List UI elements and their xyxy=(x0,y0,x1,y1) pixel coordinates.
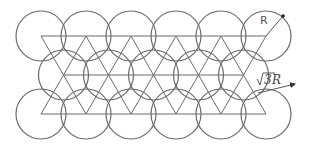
sqrt3-label: 3 R xyxy=(257,73,281,87)
sqrt3-radicand: 3 xyxy=(264,73,272,87)
circle-packing-diagram: R 3 R xyxy=(0,0,309,152)
sqrt3-suffix: R xyxy=(271,73,281,87)
radius-label: R xyxy=(260,14,268,27)
radius-line xyxy=(266,16,283,36)
radius-endpoint-dot xyxy=(281,14,285,18)
